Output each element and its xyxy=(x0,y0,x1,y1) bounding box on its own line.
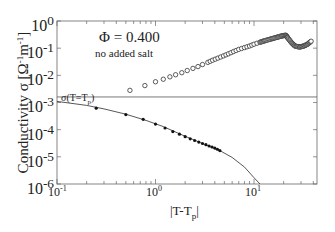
axis-ticks xyxy=(57,21,317,184)
data-point-filled xyxy=(171,130,174,133)
annotation-salt: no added salt xyxy=(95,47,153,59)
data-point-open xyxy=(161,77,165,81)
data-point-filled xyxy=(178,133,181,136)
fit-curve xyxy=(57,101,260,184)
data-point-open xyxy=(196,64,200,68)
data-point-filled xyxy=(163,126,166,129)
data-point-open xyxy=(153,80,157,84)
plot-frame xyxy=(57,21,317,184)
data-point-filled xyxy=(142,118,145,121)
x-tick-label: 100 xyxy=(146,184,162,200)
data-point-open xyxy=(180,71,184,75)
filled-circle-series xyxy=(95,107,222,153)
annotation-volume-fraction: Φ = 0.400 xyxy=(99,29,160,46)
data-point-filled xyxy=(210,145,213,148)
annotation-sigma-tp: σ(T=Tp) xyxy=(61,92,94,106)
x-tick-label: 101 xyxy=(245,184,261,200)
data-point-open xyxy=(128,88,132,92)
data-point-filled xyxy=(197,140,200,143)
data-point-open xyxy=(168,75,172,79)
data-point-open xyxy=(200,62,204,66)
y-tick-label: 10-5 xyxy=(0,149,54,171)
x-axis-label: |T-Tp| xyxy=(170,203,199,221)
data-point-filled xyxy=(193,139,196,142)
y-tick-label: 10-6 xyxy=(0,176,54,198)
data-point-filled xyxy=(218,149,221,152)
data-point-filled xyxy=(124,113,127,116)
y-tick-label: 10-3 xyxy=(0,94,54,116)
y-tick-label: 10-4 xyxy=(0,122,54,144)
data-point-filled xyxy=(204,143,207,146)
y-tick-label: 100 xyxy=(0,13,54,35)
y-tick-label: 10-1 xyxy=(0,40,54,62)
data-point-filled xyxy=(207,144,210,147)
data-point-open xyxy=(191,66,195,70)
x-tick-label: 10-1 xyxy=(48,184,67,200)
frame-rect xyxy=(57,21,317,184)
data-point-filled xyxy=(201,142,204,145)
data-point-filled xyxy=(95,107,98,110)
data-point-open xyxy=(185,68,189,72)
y-tick-label: 10-2 xyxy=(0,67,54,89)
data-point-filled xyxy=(154,123,157,126)
data-point-open xyxy=(143,83,147,87)
data-point-open xyxy=(173,73,177,77)
data-point-filled xyxy=(189,137,192,140)
data-point-filled xyxy=(184,135,187,138)
